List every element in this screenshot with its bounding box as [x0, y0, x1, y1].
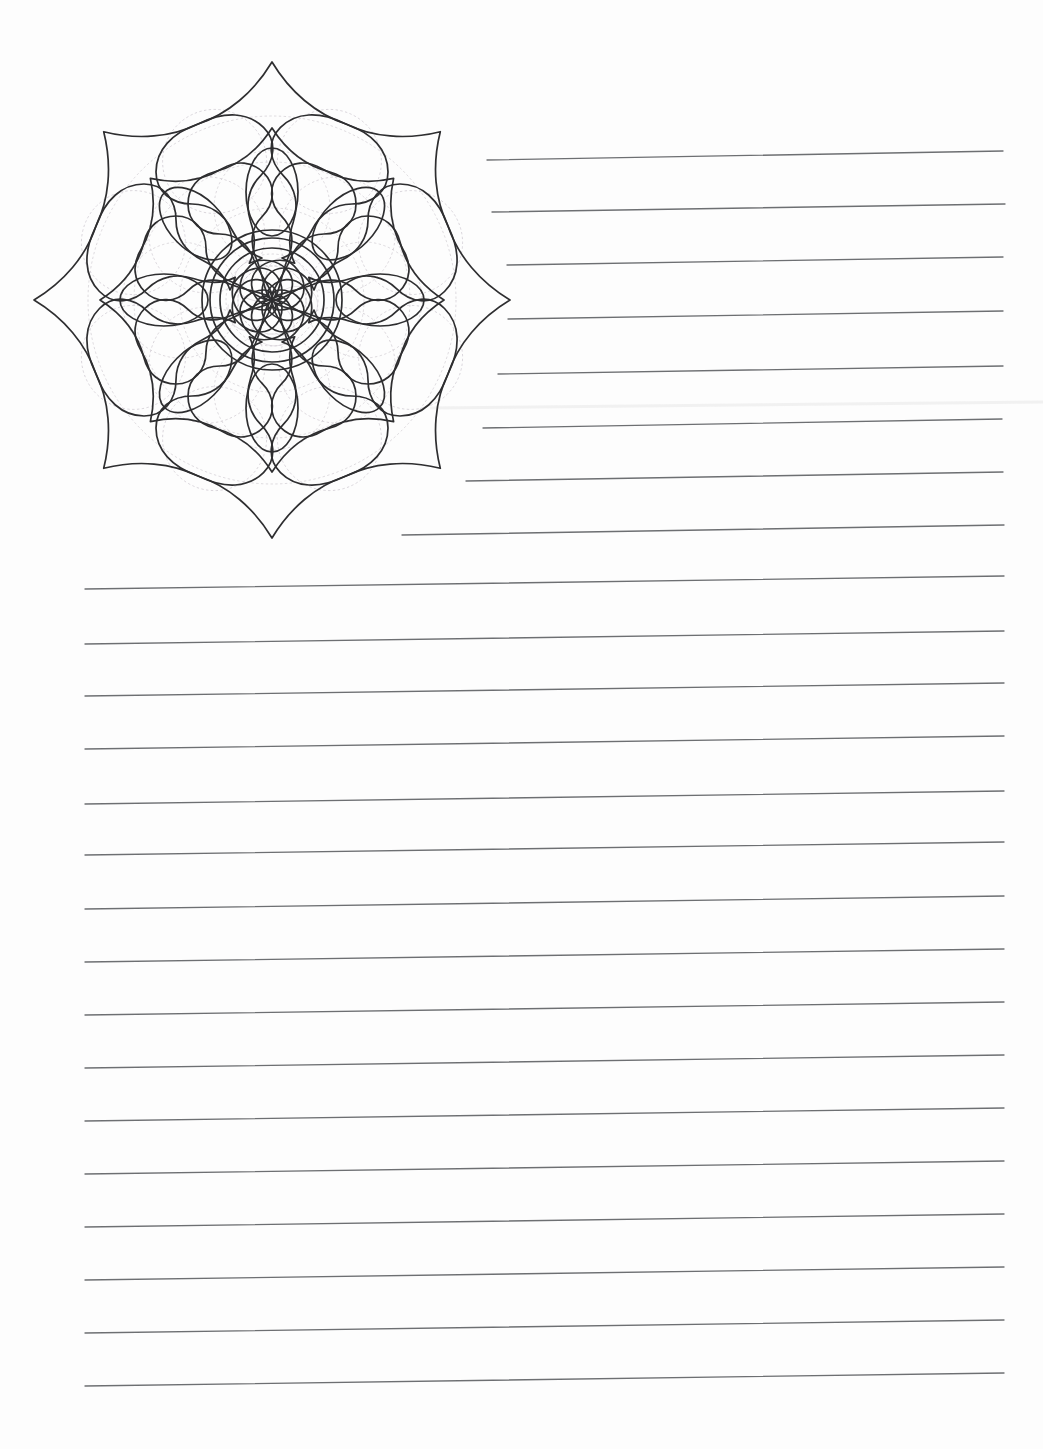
- writing-page: [0, 0, 1043, 1449]
- page-canvas: [0, 0, 1043, 1449]
- paper-background: [0, 0, 1043, 1449]
